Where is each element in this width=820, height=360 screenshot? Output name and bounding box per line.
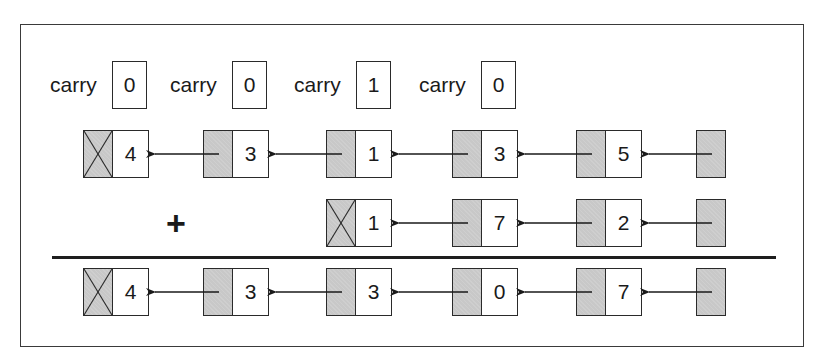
null-pointer-icon: [326, 199, 356, 247]
carry-box: 1: [356, 61, 391, 109]
list-node-b1: 7: [452, 199, 518, 247]
pointer-cell: [452, 268, 482, 316]
pointer-cell: [203, 130, 233, 178]
list-node-b2: 2: [576, 199, 642, 247]
list-node-a1: 3: [203, 130, 269, 178]
sum-separator-line: [52, 256, 776, 259]
carry-label: carry: [50, 61, 97, 109]
node-value: 7: [606, 268, 642, 316]
head-pointer-b: [696, 199, 726, 247]
carry-label: carry: [419, 61, 466, 109]
carry-label: carry: [294, 61, 341, 109]
pointer-cell: [452, 199, 482, 247]
carry-label: carry: [170, 61, 217, 109]
carry-box: 0: [232, 61, 267, 109]
pointer-cell: [576, 130, 606, 178]
pointer-cell: [576, 199, 606, 247]
head-pointer-a: [696, 130, 726, 178]
list-node-r3: 0: [452, 268, 518, 316]
node-value: 3: [356, 268, 392, 316]
node-value: 1: [356, 199, 392, 247]
node-value: 4: [113, 268, 149, 316]
pointer-cell: [576, 268, 606, 316]
node-value: 3: [482, 130, 518, 178]
node-value: 5: [606, 130, 642, 178]
node-value: 3: [233, 130, 269, 178]
list-node-b0: 1: [326, 199, 392, 247]
list-node-r2: 3: [326, 268, 392, 316]
list-node-r1: 3: [203, 268, 269, 316]
list-node-r4: 7: [576, 268, 642, 316]
node-value: 0: [482, 268, 518, 316]
node-value: 3: [233, 268, 269, 316]
node-value: 1: [356, 130, 392, 178]
head-pointer-cell: [696, 130, 726, 178]
list-node-a2: 1: [326, 130, 392, 178]
head-pointer-cell: [696, 268, 726, 316]
node-value: 2: [606, 199, 642, 247]
list-node-a4: 5: [576, 130, 642, 178]
pointer-cell: [452, 130, 482, 178]
pointer-cell: [326, 130, 356, 178]
pointer-cell: [203, 268, 233, 316]
plus-operator-icon: +: [166, 203, 186, 243]
list-node-a3: 3: [452, 130, 518, 178]
head-pointer-cell: [696, 199, 726, 247]
head-pointer-r: [696, 268, 726, 316]
null-pointer-icon: [83, 130, 113, 178]
pointer-cell: [326, 268, 356, 316]
node-value: 7: [482, 199, 518, 247]
node-value: 4: [113, 130, 149, 178]
list-node-r0: 4: [83, 268, 149, 316]
carry-box: 0: [112, 61, 147, 109]
list-node-a0: 4: [83, 130, 149, 178]
carry-box: 0: [481, 61, 516, 109]
null-pointer-icon: [83, 268, 113, 316]
